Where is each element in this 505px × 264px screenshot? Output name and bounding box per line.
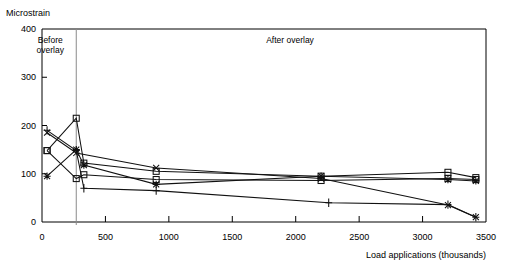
x-tick-label: 2500 [349,232,369,242]
y-tick-label: 0 [31,217,36,227]
x-tick-label: 0 [39,232,44,242]
marker-cross [153,186,160,194]
x-axis-title: Load applications (thousands) [366,250,486,260]
before-overlay-label: overlay [37,45,65,55]
x-tick-label: 1000 [159,232,179,242]
x-tick-label: 3000 [413,232,433,242]
plot-canvas: 0100200300400050010001500200025003000350… [0,0,505,264]
x-tick-label: 500 [98,232,113,242]
x-tick-label: 2000 [286,232,306,242]
x-tick-label: 3500 [476,232,496,242]
after-overlay-label: After overlay [266,35,314,45]
y-tick-label: 400 [21,24,36,34]
before-overlay-label: Before [38,35,63,45]
marker-cross [325,199,332,207]
marker-cross [80,184,87,192]
chart-figure: Microstrain 0100200300400050010001500200… [0,0,505,264]
marker-asterisk [43,173,50,180]
plot-frame [42,29,486,222]
y-tick-label: 200 [21,121,36,131]
y-tick-label: 100 [21,169,36,179]
series-line [47,151,476,181]
marker-asterisk [472,177,479,184]
marker-asterisk [444,176,451,183]
series-line [47,118,476,177]
y-tick-label: 300 [21,72,36,82]
x-tick-label: 1500 [222,232,242,242]
marker-asterisk [80,161,87,168]
